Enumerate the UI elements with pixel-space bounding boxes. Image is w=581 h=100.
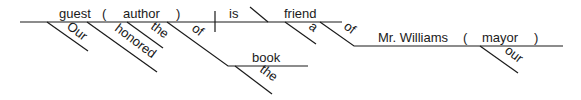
predicate-nominative-slant (250, 7, 268, 22)
appositive-close-paren-2: ) (534, 30, 538, 45)
appositive-open-paren: ( (102, 6, 107, 21)
appositive-close-paren: ) (176, 6, 180, 21)
preposition-of-2: of (341, 18, 359, 37)
appositive-open-paren-2: ( (463, 30, 468, 45)
object-mr-williams: Mr. Williams (378, 30, 449, 45)
sentence-diagram: guest ( author ) is friend Our honored t… (0, 0, 581, 100)
preposition-of: of (189, 20, 207, 39)
predicate-nominative-word: friend (284, 6, 317, 21)
appositive-word: author (123, 6, 161, 21)
prepositional-line-of-book (167, 22, 308, 66)
verb-word: is (229, 6, 239, 21)
